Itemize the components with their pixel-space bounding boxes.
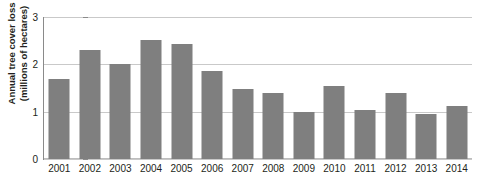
bar[interactable]	[354, 110, 375, 159]
bar[interactable]	[416, 114, 437, 159]
x-axis-tick-label: 2013	[415, 163, 437, 174]
bar[interactable]	[293, 112, 314, 159]
x-axis-tick-label: 2002	[79, 163, 101, 174]
chart-title-fragment: Annual tree cover loss	[44, 0, 177, 1]
bar-slot	[166, 17, 197, 159]
bar[interactable]	[202, 71, 223, 159]
bar-slot	[411, 17, 442, 159]
bar-slot	[75, 17, 106, 159]
bar-slot	[289, 17, 320, 159]
x-axis-tick-label: 2008	[262, 163, 284, 174]
y-axis-title: Annual tree cover loss (millions of hect…	[6, 0, 29, 134]
x-axis-tick-label: 2012	[384, 163, 406, 174]
x-axis-tick-label: 2011	[354, 163, 376, 174]
plot-area: 0123 20012002200320042005200620072008200…	[44, 17, 472, 159]
y-axis-tick-label: 3	[32, 12, 38, 23]
x-axis-tick-label: 2014	[446, 163, 468, 174]
bar[interactable]	[110, 64, 131, 159]
y-axis-title-line2: (millions of hectares)	[17, 0, 29, 134]
bar-slot	[227, 17, 258, 159]
y-axis-title-line1: Annual tree cover loss	[6, 3, 17, 105]
bar[interactable]	[385, 93, 406, 159]
bar-slot	[319, 17, 350, 159]
x-axis-tick-label: 2006	[201, 163, 223, 174]
bar-slot	[380, 17, 411, 159]
bar[interactable]	[232, 89, 253, 159]
x-axis-tick-label: 2010	[323, 163, 345, 174]
bar[interactable]	[446, 106, 467, 159]
bar-slot	[258, 17, 289, 159]
bar-slot	[197, 17, 228, 159]
bar[interactable]	[263, 93, 284, 159]
x-axis-tick-label: 2001	[48, 163, 70, 174]
x-axis-tick-label: 2003	[109, 163, 131, 174]
bar-slot	[136, 17, 167, 159]
bar-slot	[441, 17, 472, 159]
bar[interactable]	[79, 50, 100, 159]
bar[interactable]	[49, 79, 70, 159]
bar-slot	[44, 17, 75, 159]
y-axis-tick-label: 2	[32, 59, 38, 70]
bar[interactable]	[140, 40, 161, 159]
x-axis-tick-label: 2007	[232, 163, 254, 174]
chart-figure: Annual tree cover loss Annual tree cover…	[0, 0, 477, 186]
bar-slot	[350, 17, 381, 159]
y-axis-tick-label: 0	[32, 154, 38, 165]
gridline	[44, 159, 472, 160]
y-axis-tick-label: 1	[32, 106, 38, 117]
bar-slot	[105, 17, 136, 159]
x-axis-tick-label: 2009	[293, 163, 315, 174]
x-axis-tick-label: 2004	[140, 163, 162, 174]
x-axis-tick-label: 2005	[170, 163, 192, 174]
y-axis-tick-mark	[83, 159, 88, 160]
bar-series	[44, 17, 472, 159]
bar[interactable]	[324, 86, 345, 159]
bar[interactable]	[171, 44, 192, 159]
